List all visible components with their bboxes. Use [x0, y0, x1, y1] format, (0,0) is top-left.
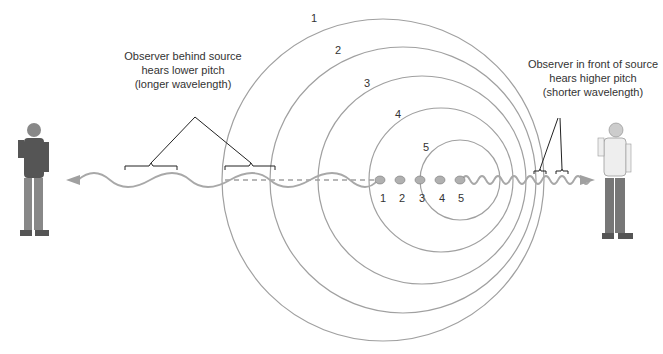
right-observer-caption: Observer in front of source hears higher… [508, 57, 663, 99]
wavefront-label-5: 5 [423, 141, 429, 153]
doppler-diagram [0, 0, 663, 354]
source-label-1: 1 [380, 192, 386, 204]
brace-left-1 [125, 163, 177, 170]
wavefront-label-2: 2 [335, 44, 341, 56]
left-braces [125, 117, 275, 170]
source-label-2: 2 [399, 192, 405, 204]
pointer-line [540, 118, 558, 169]
brace-left-2 [225, 163, 275, 170]
wavefront-label-4: 4 [395, 108, 401, 120]
source-icon-1 [375, 176, 385, 184]
source-label-5: 5 [458, 192, 464, 204]
right-braces [534, 118, 568, 174]
caption-line: Observer in front of source [508, 57, 663, 71]
brace-right-2 [556, 169, 568, 174]
source-icon-3 [415, 176, 425, 184]
wavefront-label-3: 3 [364, 77, 370, 89]
caption-line: hears lower pitch [103, 63, 263, 77]
caption-line: hears higher pitch [508, 71, 663, 85]
source-icon-2 [395, 176, 405, 184]
wavefront-label-1: 1 [311, 12, 317, 24]
left-arrowhead-icon [66, 175, 80, 185]
caption-line: (shorter wavelength) [508, 85, 663, 99]
left-observer-caption: Observer behind source hears lower pitch… [103, 49, 263, 91]
caption-line: (longer wavelength) [103, 77, 263, 91]
source-label-4: 4 [439, 192, 445, 204]
caption-line: Observer behind source [103, 49, 263, 63]
pointer-line [195, 117, 251, 163]
pointer-line [560, 118, 562, 169]
right-observer-figure [598, 123, 633, 239]
source-icon-4 [435, 176, 445, 184]
pointer-line [151, 117, 195, 163]
source-icons [375, 176, 465, 184]
source-label-3: 3 [419, 192, 425, 204]
source-icon-5 [455, 176, 465, 184]
left-observer-figure [18, 123, 49, 236]
